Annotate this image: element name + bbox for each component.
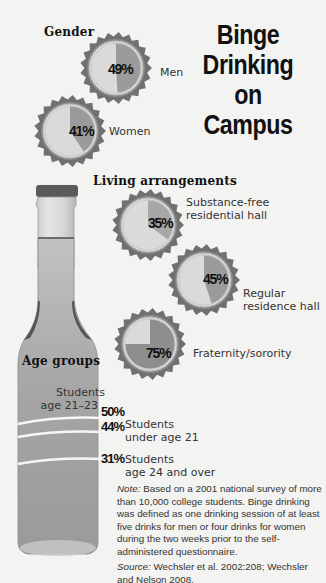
- substance-free-percent: 35%: [148, 215, 172, 231]
- women-percent: 41%: [69, 123, 93, 139]
- note-paragraph: Note: Based on a 2001 national survey of…: [117, 483, 322, 558]
- note-text: Based on a 2001 national survey of more …: [117, 483, 322, 557]
- under-21-percent: 44%: [101, 419, 124, 434]
- age-21-23-label-2: age 21–23: [40, 399, 98, 412]
- label-line: Students: [125, 453, 215, 466]
- age-heading: Age groups: [22, 354, 100, 368]
- page-title: Binge Drinking on Campus: [188, 20, 308, 140]
- note-label: Note:: [117, 483, 140, 494]
- fraternity-label: Fraternity/sorority: [193, 347, 292, 360]
- over-24-label: Students age 24 and over: [125, 453, 215, 479]
- source-paragraph: Source: Wechsler et al. 2002:208; Wechsl…: [117, 561, 322, 583]
- regular-hall-percent: 45%: [203, 271, 227, 287]
- label-line: Students: [125, 418, 199, 431]
- regular-hall-label: Regular residence hall: [243, 287, 320, 313]
- over-24-percent: 31%: [101, 451, 124, 466]
- fraternity-percent: 75%: [146, 345, 170, 361]
- label-line: Students: [56, 386, 98, 399]
- bottle-cap-top: [36, 185, 78, 197]
- footnote: Note: Based on a 2001 national survey of…: [117, 483, 322, 583]
- label-line: Regular: [243, 287, 320, 300]
- label-line: Substance-free: [186, 196, 269, 209]
- beer-bottle-illustration: [10, 180, 105, 560]
- label-line: under age 21: [125, 431, 199, 444]
- label-line: residence hall: [243, 300, 320, 313]
- living-heading: Living arrangements: [93, 174, 237, 188]
- title-line-3: on Campus: [188, 80, 308, 140]
- label-line: residential hall: [186, 209, 269, 222]
- title-line-1: Binge: [188, 20, 308, 50]
- bottle-cap-fraternity-pie: [112, 306, 188, 382]
- under-21-label: Students under age 21: [125, 418, 199, 444]
- age-21-23-label: Students: [56, 386, 98, 399]
- substance-free-label: Substance-free residential hall: [186, 196, 269, 222]
- men-percent: 49%: [108, 61, 132, 77]
- label-line: age 21–23: [40, 399, 98, 412]
- men-label: Men: [160, 66, 183, 79]
- label-line: age 24 and over: [125, 466, 215, 479]
- women-label: Women: [109, 125, 150, 138]
- title-line-2: Drinking: [188, 50, 308, 80]
- age-21-23-percent: 50%: [101, 404, 124, 419]
- source-label: Source:: [117, 561, 151, 572]
